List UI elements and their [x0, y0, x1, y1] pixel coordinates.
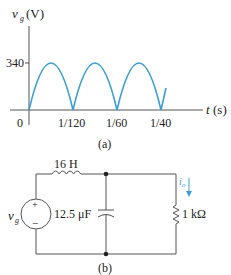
x-axis-unit: (s)	[213, 102, 227, 117]
x-tick-1-120: 1/120	[58, 116, 85, 130]
circuit	[21, 171, 179, 254]
inductor-label: 16 H	[54, 157, 78, 171]
current-sub: o	[182, 181, 186, 189]
caption-a: (a)	[98, 137, 111, 151]
resistor-symbol	[173, 205, 179, 224]
x-tick-1-40: 1/40	[150, 116, 171, 130]
x-axis-var: t	[206, 102, 210, 117]
y-axis-sub: g	[20, 14, 24, 23]
x-tick-0: 0	[17, 116, 23, 130]
source-sub: g	[15, 216, 19, 225]
caption-b: (b)	[98, 261, 112, 275]
node-bottom	[104, 252, 109, 257]
y-axis-unit: (V)	[26, 6, 44, 21]
current-arrow-icon	[186, 191, 192, 197]
y-tick-340: 340	[6, 56, 24, 70]
inductor-symbol	[52, 171, 81, 174]
capacitor-label: 12.5 μF	[54, 207, 91, 221]
panel-a-graph	[10, 26, 203, 125]
node-top	[104, 172, 109, 177]
rectified-sine-curve	[29, 63, 166, 110]
source-plus: +	[32, 199, 38, 210]
y-axis-var: v	[12, 6, 18, 21]
figure: v g (V) 340 t (s) 0 1/120 1/60 1/40 (a) …	[0, 0, 231, 275]
source-var: v	[8, 208, 14, 223]
resistor-label: 1 kΩ	[182, 207, 206, 221]
source-minus: −	[32, 217, 38, 229]
wire-left-top	[36, 174, 52, 199]
x-tick-1-60: 1/60	[106, 116, 127, 130]
